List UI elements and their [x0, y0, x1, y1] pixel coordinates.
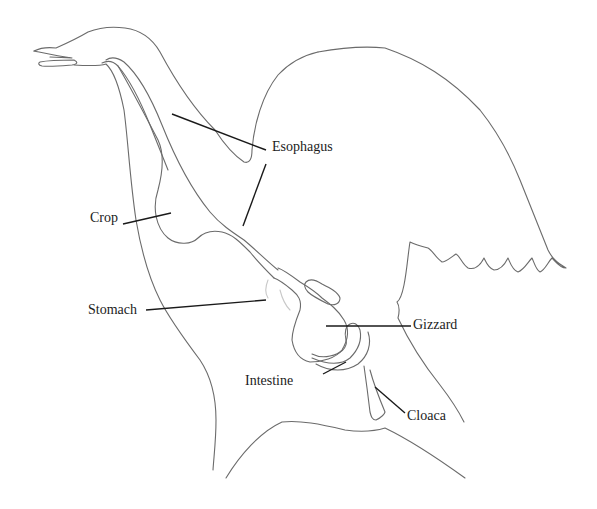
bird-illustration: [0, 0, 597, 509]
gizzard-lobe: [305, 280, 340, 305]
label-crop: Crop: [90, 211, 118, 225]
label-gizzard: Gizzard: [413, 318, 457, 332]
stomach-outline: [274, 268, 348, 362]
crop-leader: [123, 213, 171, 224]
label-esophagus: Esophagus: [272, 140, 333, 154]
label-intestine: Intestine: [245, 374, 293, 388]
diagram-canvas: Esophagus Crop Stomach Gizzard Intestine…: [0, 0, 597, 509]
label-stomach: Stomach: [88, 303, 137, 317]
cloaca-leader: [375, 387, 405, 413]
beak-upper: [34, 51, 72, 58]
esophagus-leader-upper: [172, 114, 266, 150]
lower-body-outline: [226, 421, 465, 478]
intestine-loop-outer: [312, 323, 361, 363]
neck-front-outline: [74, 64, 216, 470]
label-cloaca: Cloaca: [407, 409, 446, 423]
stomach-leader: [146, 300, 266, 310]
stomach-segment: [266, 280, 290, 310]
esophagus-leader-lower: [243, 164, 266, 226]
beak-lower: [39, 60, 77, 66]
